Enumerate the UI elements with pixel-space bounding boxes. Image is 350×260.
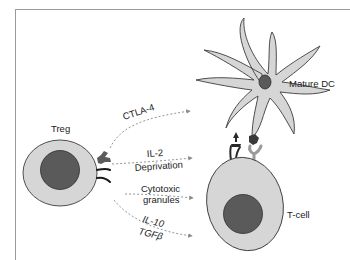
t-cell-nucleus	[224, 195, 263, 234]
il2-label-line1: IL-2	[146, 147, 163, 159]
treg-ctla4-receptor-icon	[97, 151, 111, 164]
regulatory-t-cell-mechanisms-diagram: Mature DC T-cell Treg CTLA-4 IL-2	[0, 0, 350, 260]
cytotoxic-label-line2: granules	[143, 194, 180, 205]
cytotoxic-granules-mechanism: Cytotoxic granules	[125, 183, 193, 205]
b7-ligand-icon	[231, 132, 241, 147]
t-cell-label: T-cell	[287, 209, 310, 220]
treg-cell: Treg	[23, 123, 111, 206]
ctla4-label: CTLA-4	[121, 101, 156, 122]
il2-label-line2: Deprivation	[134, 159, 183, 173]
dc-nucleus	[259, 75, 271, 89]
t-cell: T-cell	[198, 146, 310, 258]
il2-deprivation-mechanism: IL-2 Deprivation	[112, 147, 192, 173]
mature-dc: Mature DC	[196, 18, 335, 138]
cytotoxic-label-line1: Cytotoxic	[141, 183, 180, 194]
il10-tgfb-mechanism: IL-10 TGFβ	[114, 200, 192, 242]
treg-label: Treg	[51, 123, 70, 134]
treg-tcr-receptor-icon	[97, 169, 110, 182]
dc-surface-molecules	[231, 132, 259, 147]
mhc-molecule-icon	[249, 134, 259, 145]
ctla4-mechanism: CTLA-4	[110, 101, 190, 148]
treg-nucleus	[41, 151, 80, 190]
mature-dc-label: Mature DC	[289, 78, 335, 89]
